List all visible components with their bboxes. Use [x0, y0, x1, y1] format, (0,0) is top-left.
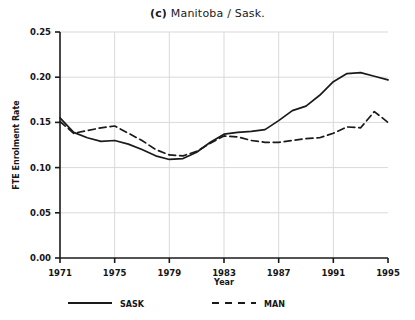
legend-label-sask: SASK	[120, 300, 145, 309]
y-tick-label: 0.25	[30, 27, 51, 37]
y-tick-label: 0.15	[30, 117, 51, 127]
chart-figure: (c) Manitoba / Sask. 0.000.050.100.150.2…	[0, 0, 415, 320]
x-tick-label: 1987	[267, 268, 291, 278]
y-tick-label: 0.05	[30, 208, 51, 218]
chart-title-text: Manitoba / Sask.	[171, 7, 265, 20]
x-tick-label: 1979	[157, 268, 181, 278]
y-tick-label: 0.00	[30, 253, 51, 263]
x-tick-label: 1971	[48, 268, 72, 278]
y-tick-label: 0.10	[30, 163, 51, 173]
panel-tag: (c)	[150, 7, 167, 20]
x-tick-label: 1975	[103, 268, 127, 278]
chart-title: (c) Manitoba / Sask.	[0, 7, 415, 20]
x-axis-title: Year	[213, 278, 234, 287]
x-tick-label: 1995	[376, 268, 400, 278]
y-axis-title: FTE Enrolment Rate	[12, 100, 21, 190]
legend-label-man: MAN	[264, 300, 285, 309]
y-tick-label: 0.20	[30, 72, 51, 82]
chart-legend: SASKMAN	[68, 300, 285, 309]
x-axis-tick-labels: 1971197519791983198719911995	[48, 268, 400, 278]
x-tick-label: 1983	[212, 268, 236, 278]
x-tick-label: 1991	[321, 268, 345, 278]
y-axis-tick-labels: 0.000.050.100.150.200.25	[30, 27, 51, 263]
line-chart-plot: 0.000.050.100.150.200.25 197119751979198…	[0, 0, 415, 320]
